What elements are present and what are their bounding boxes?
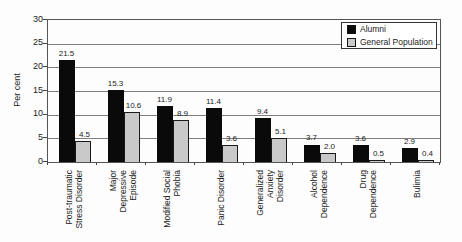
y-tick-label: 20 [16, 61, 43, 72]
legend-label-general-population: General Population [360, 38, 433, 47]
bar-general-population [369, 160, 385, 162]
alumni-swatch-icon [347, 25, 356, 34]
x-tick [390, 162, 391, 165]
y-tick-label: 15 [16, 85, 43, 96]
y-tick [43, 19, 47, 20]
bar-alumni [255, 118, 271, 162]
value-label: 8.9 [168, 109, 198, 119]
x-tick [292, 162, 293, 165]
general-population-swatch-icon [347, 38, 356, 47]
category-label: Panic Disorder [216, 170, 226, 240]
y-tick-label: 10 [16, 108, 43, 119]
category-label: Generalized Anxiety Disorder [255, 170, 285, 240]
value-label: 2.9 [395, 137, 425, 147]
value-label: 5.1 [266, 127, 296, 137]
value-label: 11.4 [199, 97, 229, 107]
y-tick-label: 30 [16, 14, 43, 25]
legend-item-general-population: General Population [347, 37, 436, 48]
value-label: 4.5 [70, 130, 100, 140]
bar-alumni [59, 60, 75, 162]
y-tick-label: 5 [16, 132, 43, 143]
category-label: Drug Dependence [358, 170, 378, 240]
y-tick-label: 25 [16, 37, 43, 48]
bar-general-population [75, 141, 91, 162]
category-label: Modified Social Phobia [162, 170, 182, 240]
bar-general-population [418, 160, 434, 162]
value-label: 3.6 [346, 134, 376, 144]
x-tick [194, 162, 195, 165]
value-label: 0.5 [364, 149, 394, 159]
y-tick [43, 90, 47, 91]
x-tick [243, 162, 244, 165]
legend: Alumni General Population [341, 22, 437, 49]
value-label: 10.6 [119, 101, 149, 111]
y-tick [43, 137, 47, 138]
bar-general-population [173, 120, 189, 162]
bar-general-population [271, 138, 287, 162]
x-tick [439, 162, 440, 165]
bar-general-population [320, 153, 336, 162]
category-label: Alcohol Dependence [309, 170, 329, 240]
bar-general-population [222, 145, 238, 162]
x-tick [96, 162, 97, 165]
value-label: 11.9 [150, 95, 180, 105]
x-tick [341, 162, 342, 165]
value-label: 2.0 [315, 142, 345, 152]
legend-item-alumni: Alumni [347, 24, 436, 35]
x-tick [47, 162, 48, 165]
value-label: 9.4 [248, 107, 278, 117]
value-label: 0.4 [413, 149, 443, 159]
category-label: Bulimia [412, 170, 422, 240]
y-tick [43, 43, 47, 44]
category-label: Post-traumatic Stress Disorder [64, 170, 84, 240]
value-label: 15.3 [101, 79, 131, 89]
value-label: 3.6 [217, 134, 247, 144]
y-tick [43, 66, 47, 67]
y-tick-label: 0 [16, 156, 43, 167]
category-label: Major Depressive Episode [108, 170, 138, 240]
legend-label-alumni: Alumni [360, 25, 386, 34]
y-tick [43, 114, 47, 115]
figure: Per cent 21.54.515.310.611.98.911.43.69.… [0, 0, 462, 242]
bar-general-population [124, 112, 140, 162]
gridline-20 [48, 67, 440, 68]
x-tick [145, 162, 146, 165]
value-label: 21.5 [52, 49, 82, 59]
